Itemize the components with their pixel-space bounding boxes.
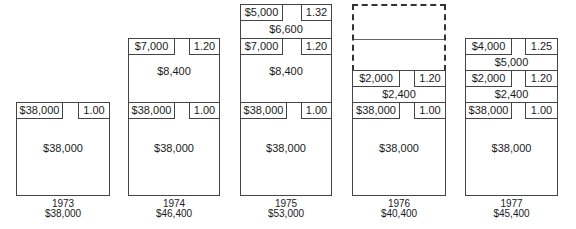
amount-label: $4,000 (466, 39, 512, 55)
amount-label: $2,000 (466, 71, 512, 87)
block-base: $38,000 1.00 $38,000 (16, 102, 110, 196)
amount-label: $38,000 (466, 103, 512, 119)
factor-label: 1.20 (414, 71, 445, 87)
block-3: $4,000 1.25 $5,000 (465, 38, 558, 71)
block-base: $38,000 1.00 $38,000 (352, 102, 446, 196)
result-label: $38,000 (17, 142, 109, 154)
amount-label: $7,000 (241, 39, 283, 55)
factor-label: 1.25 (525, 39, 557, 55)
total-label: $53,000 (240, 209, 332, 219)
factor-label: 1.00 (301, 103, 331, 119)
result-label: $6,600 (241, 23, 331, 35)
block-base: $38,000 1.00 $38,000 (465, 102, 558, 196)
factor-label: 1.00 (414, 103, 445, 119)
column-1976: $2,000 1.20 $2,400 $38,000 1.00 $38,000 … (352, 0, 446, 229)
factor-label: 1.20 (525, 71, 557, 87)
amount-label: $5,000 (241, 5, 283, 21)
result-label: $38,000 (353, 142, 445, 154)
result-label: $8,400 (241, 65, 331, 77)
result-label: $8,400 (129, 65, 219, 77)
block-2: $7,000 1.20 $8,400 (240, 38, 332, 103)
block-base: $38,000 1.00 $38,000 (128, 102, 220, 196)
result-label: $5,000 (466, 56, 557, 68)
block-2: $2,000 1.20 $2,400 (465, 70, 558, 103)
result-label: $2,400 (466, 88, 557, 100)
divider (354, 39, 444, 40)
column-1974: $7,000 1.20 $8,400 $38,000 1.00 $38,000 … (128, 0, 220, 229)
factor-label: 1.20 (189, 39, 219, 55)
factor-label: 1.00 (189, 103, 219, 119)
amount-label: $2,000 (353, 71, 400, 87)
block-2: $2,000 1.20 $2,400 (352, 70, 446, 103)
amount-label: $7,000 (129, 39, 175, 55)
factor-label: 1.00 (78, 103, 109, 119)
total-label: $45,400 (465, 209, 558, 219)
removed-blocks-outline (352, 4, 446, 71)
factor-label: 1.20 (301, 39, 331, 55)
block-2: $7,000 1.20 $8,400 (128, 38, 220, 103)
factor-label: 1.00 (525, 103, 557, 119)
amount-label: $38,000 (353, 103, 400, 119)
result-label: $38,000 (241, 142, 331, 154)
column-1977: $4,000 1.25 $5,000 $2,000 1.20 $2,400 $3… (465, 0, 558, 229)
total-label: $46,400 (128, 209, 220, 219)
result-label: $38,000 (466, 142, 557, 154)
block-3: $5,000 1.32 $6,600 (240, 4, 332, 39)
column-1973: $38,000 1.00 $38,000 1973 $38,000 (16, 0, 110, 229)
amount-label: $38,000 (17, 103, 63, 119)
amount-label: $38,000 (129, 103, 175, 119)
factor-label: 1.32 (301, 5, 331, 21)
total-label: $38,000 (16, 209, 110, 219)
result-label: $38,000 (129, 142, 219, 154)
column-1975: $5,000 1.32 $6,600 $7,000 1.20 $8,400 $3… (240, 0, 332, 229)
result-label: $2,400 (353, 88, 445, 100)
total-label: $40,400 (352, 209, 446, 219)
block-base: $38,000 1.00 $38,000 (240, 102, 332, 196)
amount-label: $38,000 (241, 103, 287, 119)
